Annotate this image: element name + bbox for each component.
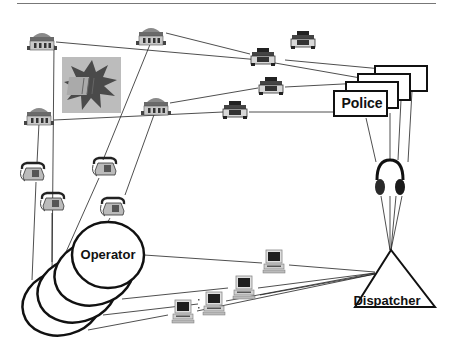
telephone-icon [21, 163, 45, 181]
computer-icon [172, 300, 194, 323]
police-car-icon [291, 31, 315, 49]
house-icon [24, 108, 54, 125]
police-car-icon [223, 101, 247, 119]
operator-stack [15, 222, 144, 344]
dots [198, 299, 200, 309]
police-car-icon [251, 48, 275, 66]
house-icon [27, 33, 57, 50]
house-icon [141, 98, 171, 115]
explosion-icon [62, 57, 121, 113]
telephone-icon [101, 198, 125, 216]
police-label: Police [337, 95, 387, 111]
dispatcher-label: Dispatcher [352, 293, 422, 308]
headphones-icon [375, 160, 405, 195]
police-car-icon [259, 77, 283, 95]
computer-icon [263, 250, 285, 273]
computer-icon [233, 276, 255, 299]
telephone-icon [93, 158, 117, 176]
computer-icon [203, 292, 225, 315]
operator-label: Operator [78, 247, 138, 262]
house-icon [136, 28, 166, 45]
